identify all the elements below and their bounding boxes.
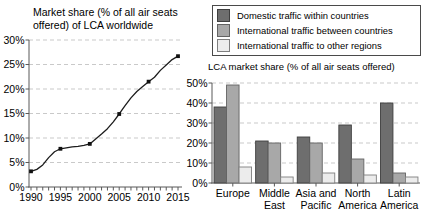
svg-text:Middle: Middle	[259, 187, 290, 199]
svg-text:East: East	[264, 199, 285, 211]
svg-text:Pacific: Pacific	[301, 199, 332, 211]
svg-text:30%: 30%	[186, 117, 207, 129]
svg-text:0%: 0%	[192, 177, 207, 189]
svg-text:10%: 10%	[186, 157, 207, 169]
svg-text:America: America	[380, 199, 419, 211]
svg-text:10%: 10%	[3, 132, 24, 144]
bar-series-1	[227, 85, 406, 183]
svg-text:1990: 1990	[19, 191, 43, 203]
svg-text:15%: 15%	[3, 107, 24, 119]
svg-text:2000: 2000	[78, 191, 102, 203]
svg-text:America: America	[338, 199, 377, 211]
legend-label-international-between: International traffic between countries	[237, 25, 393, 36]
dual-chart-figure: Market share (% of all air seats offered…	[0, 0, 423, 224]
bar-chart: 0%10%20%30%40%50%EuropeMiddleEastAsia an…	[185, 55, 423, 224]
svg-text:40%: 40%	[186, 97, 207, 109]
svg-text:20%: 20%	[3, 83, 24, 95]
svg-text:2005: 2005	[108, 191, 132, 203]
legend-label-domestic: Domestic traffic within countries	[237, 10, 369, 21]
legend-swatch-international-other-icon	[217, 39, 230, 52]
legend-item-international-between: International traffic between countries	[217, 23, 418, 38]
svg-text:Asia and: Asia and	[296, 187, 337, 199]
bar-chart-legend: Domestic traffic within countries Intern…	[212, 5, 421, 56]
svg-text:25%: 25%	[3, 58, 24, 70]
line-axes	[26, 40, 183, 191]
line-y-gridlines	[29, 40, 182, 163]
svg-text:5%: 5%	[9, 156, 24, 168]
legend-label-international-other: International traffic to other regions	[237, 40, 382, 51]
legend-item-domestic: Domestic traffic within countries	[217, 8, 418, 23]
svg-text:Europe: Europe	[216, 187, 250, 199]
svg-text:30%: 30%	[3, 34, 24, 46]
svg-text:50%: 50%	[186, 77, 207, 89]
line-chart: 0%5%10%15%20%25%30%199019952000200520102…	[0, 0, 205, 224]
legend-swatch-domestic-icon	[217, 9, 230, 22]
line-axis-labels: 0%5%10%15%20%25%30%199019952000200520102…	[3, 34, 189, 204]
legend-item-international-other: International traffic to other regions	[217, 38, 418, 53]
svg-text:2010: 2010	[137, 191, 161, 203]
legend-swatch-international-between-icon	[217, 24, 230, 37]
svg-text:Latin: Latin	[388, 187, 411, 199]
svg-text:1995: 1995	[49, 191, 73, 203]
svg-text:North: North	[345, 187, 371, 199]
svg-text:20%: 20%	[186, 137, 207, 149]
